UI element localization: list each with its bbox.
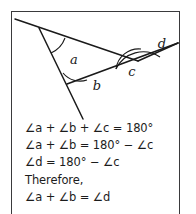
angle-label-c: c [128, 64, 136, 79]
angle-label-d: d [158, 36, 166, 51]
proof-line-conclusion: ∠a + ∠b = ∠d [25, 189, 177, 206]
line-left-through-a-and-b [39, 28, 83, 119]
angle-label-b: b [93, 78, 101, 93]
angle-arc-a [51, 38, 65, 53]
proof-text-block: ∠a + ∠b + ∠c = 180° ∠a + ∠b = 180° − ∠c … [25, 120, 177, 206]
proof-line-3: ∠d = 180° − ∠c [25, 154, 177, 171]
angle-label-a: a [70, 52, 78, 67]
proof-line-1: ∠a + ∠b + ∠c = 180° [25, 120, 177, 137]
triangle-exterior-angle-figure: a b c d [12, 12, 179, 124]
proof-line-therefore: Therefore, [25, 172, 177, 189]
bordered-content-frame: a b c d ∠a + ∠b + ∠c = 180° ∠a + ∠b = 18… [11, 11, 180, 214]
proof-line-2: ∠a + ∠b = 180° − ∠c [25, 137, 177, 154]
geometry-proof-card: a b c d ∠a + ∠b + ∠c = 180° ∠a + ∠b = 18… [0, 0, 196, 214]
